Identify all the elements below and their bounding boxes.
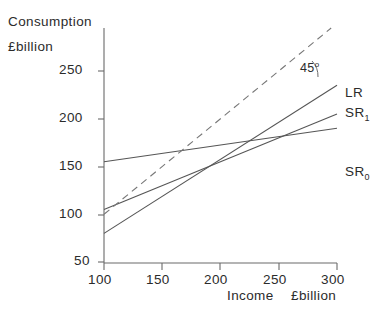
- y-axis-title-line1: Consumption: [8, 14, 92, 29]
- series-label-sr1: SR1: [345, 105, 370, 123]
- x-tick-label-250: 250: [263, 272, 287, 287]
- series-label-lr-text: LR: [345, 85, 363, 100]
- series-label-sr0-text: SR: [345, 164, 365, 179]
- series-label-sr1-text: SR: [345, 105, 365, 120]
- x-tick-label-200: 200: [204, 272, 228, 287]
- series-line-LR: [104, 85, 337, 233]
- y-tick-label-150: 150: [59, 158, 83, 173]
- y-tick-label-100: 100: [59, 206, 83, 221]
- series-line-SR0: [104, 128, 337, 161]
- series-line-forty-five-degree-line: [104, 28, 331, 214]
- y-tick-label-200: 200: [59, 110, 83, 125]
- x-axis-title-part2: £billion: [291, 288, 336, 303]
- x-tick-label-300: 300: [321, 272, 345, 287]
- x-tick-label-150: 150: [146, 272, 170, 287]
- y-tick-label-50: 50: [74, 253, 90, 268]
- series-label-sr1-subscript: 1: [365, 113, 370, 123]
- angle-45-value: 45: [300, 61, 315, 75]
- series-lines-group: [104, 28, 337, 233]
- consumption-function-chart: Consumption £billion Income £billion 250…: [0, 0, 391, 321]
- y-axis-title-line2: £billion: [8, 39, 53, 54]
- series-label-sr0-subscript: 0: [365, 172, 370, 182]
- degree-symbol: o: [315, 60, 320, 69]
- series-label-lr: LR: [345, 85, 363, 100]
- y-tick-label-250: 250: [59, 62, 83, 77]
- series-line-SR1: [104, 114, 337, 210]
- series-label-sr0: SR0: [345, 164, 370, 182]
- angle-45-label: 45o: [300, 60, 320, 75]
- x-tick-label-100: 100: [88, 272, 112, 287]
- x-axis-title-part1: Income: [227, 288, 274, 303]
